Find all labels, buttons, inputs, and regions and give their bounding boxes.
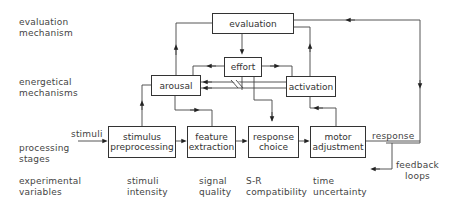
box-label: evaluation [229,19,276,29]
box-evaluation: evaluation [212,13,294,34]
row-label-processing: processing stages [19,143,70,165]
variable-line: compatibility [246,187,307,198]
feedback-line: loops [396,171,439,182]
row-label-evaluation: evaluation mechanism [19,17,73,39]
box-arousal: arousal [151,75,201,96]
box-effort: effort [224,57,262,77]
feedback-loops-label: feedback loops [396,160,439,182]
box-response-choice: responsechoice [248,126,299,158]
box-label: motor [312,132,363,142]
box-label: activation [289,82,334,92]
variable-line: S-R [246,176,307,187]
box-label: adjustment [312,142,363,152]
variable-time-uncertainty: time uncertainty [313,176,367,198]
row-label-line: processing [19,143,70,154]
output-label-response: response [372,131,414,142]
row-label-energetical: energetical mechanisms [19,77,78,99]
box-feature-extraction: featureextraction [187,126,236,158]
box-label: stimulus [110,132,173,142]
input-label-stimuli: stimuli [71,129,103,140]
variable-line: intensity [127,187,168,198]
box-label: extraction [189,142,235,152]
row-label-line: energetical [19,77,78,88]
variable-line: stimuli [127,176,168,187]
variable-line: time [313,176,367,187]
row-label-line: evaluation [19,17,73,28]
box-label: choice [253,142,294,152]
variable-line: signal [199,176,231,187]
row-label-line: experimental [19,176,81,187]
variable-line: uncertainty [313,187,367,198]
row-label-line: mechanism [19,28,73,39]
row-label-line: stages [19,154,70,165]
box-stimulus-preprocessing: stimuluspreprocessing [108,126,176,158]
variable-sr-compatibility: S-R compatibility [246,176,307,198]
variable-line: quality [199,187,231,198]
feedback-line: feedback [396,160,439,171]
box-label: feature [189,132,235,142]
box-label: response [253,132,294,142]
row-label-experimental: experimental variables [19,176,81,198]
box-motor-adjustment: motoradjustment [310,126,366,158]
row-label-line: variables [19,187,81,198]
box-activation: activation [286,76,336,97]
box-label: arousal [160,81,193,91]
row-label-line: mechanisms [19,88,78,99]
variable-stimuli-intensity: stimuli intensity [127,176,168,198]
box-label: effort [231,62,255,72]
variable-signal-quality: signal quality [199,176,231,198]
box-label: preprocessing [110,142,173,152]
